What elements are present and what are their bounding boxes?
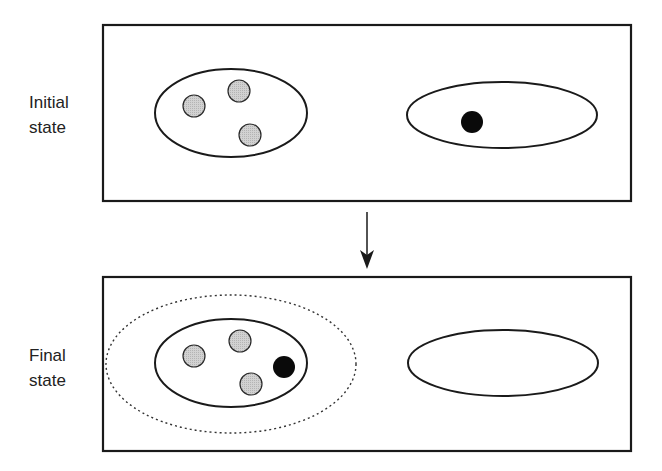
final-left-group <box>155 319 307 407</box>
final-state-panel <box>103 277 631 451</box>
gray-particle <box>183 345 205 367</box>
state-diagram <box>0 0 662 471</box>
gray-particle <box>228 80 250 102</box>
black-particle <box>273 356 295 378</box>
initial-panel-frame <box>103 25 631 201</box>
initial-state-panel <box>103 25 631 201</box>
initial-right-group <box>407 82 597 148</box>
gray-particle <box>240 373 262 395</box>
gray-particle <box>183 95 205 117</box>
initial-left-group <box>155 69 307 157</box>
final-panel-frame <box>103 277 631 451</box>
black-particle <box>461 111 483 133</box>
left-container-ellipse <box>155 69 307 157</box>
final-right-group <box>408 330 598 396</box>
gray-particle <box>229 330 251 352</box>
gray-particle <box>239 124 261 146</box>
right-container-ellipse <box>408 330 598 396</box>
transition-arrow <box>360 212 374 269</box>
right-container-ellipse <box>407 82 597 148</box>
dotted-system-boundary <box>106 295 356 433</box>
